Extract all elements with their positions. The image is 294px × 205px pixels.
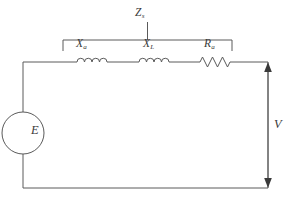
label-xl-symbol: X: [143, 37, 150, 49]
resistor-ra-symbol: [200, 57, 230, 67]
voltage-arrow-head-down: [264, 178, 272, 188]
circuit-diagram: Zs Xa XL Ra E V: [0, 0, 294, 205]
voltage-arrow: [264, 62, 272, 188]
circuit-schematic-graphics: [0, 0, 294, 205]
label-resistance-armature: Ra: [204, 38, 215, 50]
label-terminal-voltage: V: [274, 118, 282, 131]
label-impedance-synchronous: Zs: [135, 7, 144, 19]
label-e-symbol: E: [31, 123, 39, 137]
label-reactance-leakage: XL: [143, 38, 154, 50]
label-v-symbol: V: [274, 117, 282, 131]
label-ra-subscript: a: [211, 43, 215, 51]
label-xa-subscript: a: [83, 43, 87, 51]
inductor-xa-symbol: [77, 58, 107, 62]
label-xl-subscript: L: [150, 43, 154, 51]
label-reactance-armature: Xa: [76, 38, 87, 50]
label-xa-symbol: X: [76, 37, 83, 49]
label-zs-symbol: Z: [135, 6, 141, 18]
label-ra-symbol: R: [204, 37, 211, 49]
label-voltage-source: E: [31, 124, 39, 137]
voltage-arrow-head-up: [264, 62, 272, 72]
inductor-xl-symbol: [139, 58, 169, 62]
